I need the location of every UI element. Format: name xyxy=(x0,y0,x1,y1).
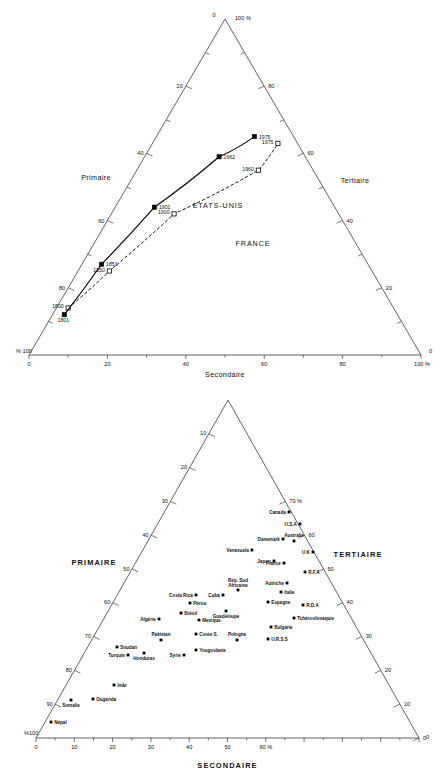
axis-tick-label: 40 xyxy=(142,532,148,538)
data-point xyxy=(99,262,103,266)
country-marker xyxy=(222,594,225,597)
axis-tick-label: 20 xyxy=(385,667,391,673)
apex-label-left: 0 xyxy=(212,12,215,18)
axis-label-secondaire: Secondaire xyxy=(205,370,245,379)
country-marker xyxy=(293,617,296,620)
axis-tick xyxy=(413,738,419,741)
data-point-label: 1962 xyxy=(224,154,236,160)
axis-tick xyxy=(127,187,131,189)
axis-tick-label: 100 % xyxy=(414,361,430,367)
country-marker xyxy=(236,639,239,642)
axis-tick-label: 0 xyxy=(27,361,30,367)
triangle-outline xyxy=(36,400,419,738)
country-marker xyxy=(180,612,183,615)
axis-tick-label: 60 xyxy=(98,218,104,224)
data-point-label: 1800 xyxy=(52,303,64,309)
axis-tick xyxy=(170,501,176,504)
country-label: Pérou xyxy=(193,601,206,606)
country-marker xyxy=(189,602,192,605)
country-marker xyxy=(293,540,296,543)
axis-tick xyxy=(74,670,80,673)
country-marker xyxy=(195,594,198,597)
axis-tick xyxy=(394,704,400,707)
country-label: Brésil xyxy=(184,611,197,616)
ternary-plot-bottom: 0102030405060 %%1000SECONDAIRE1020304050… xyxy=(0,390,446,775)
axis-tick xyxy=(94,637,100,640)
axis-tick-label: 80 xyxy=(59,285,65,291)
country-marker xyxy=(127,654,130,657)
country-label: Algérie xyxy=(140,617,156,622)
axis-tick-label: 60 xyxy=(307,150,313,156)
axis-tick-label: 60 % xyxy=(259,744,272,750)
axis-tick xyxy=(151,535,157,538)
country-marker xyxy=(195,649,198,652)
country-marker xyxy=(251,549,254,552)
country-marker xyxy=(70,699,73,702)
country-marker xyxy=(299,523,302,526)
country-label: Yougoslavie xyxy=(199,648,226,653)
country-label: Rép. SudAfricaine xyxy=(228,578,248,588)
axis-tick-label: 60 xyxy=(104,599,110,605)
country-label: Autriche xyxy=(265,581,284,586)
series-label-etats-unis: ETATS-UNIS xyxy=(193,201,244,210)
axis-tick-label: 40 xyxy=(183,361,189,367)
axis-tick-label: 40 xyxy=(137,150,143,156)
country-marker xyxy=(280,591,283,594)
axis-tick xyxy=(209,434,215,437)
country-marker xyxy=(267,638,270,641)
axis-tick xyxy=(376,288,382,291)
axis-tick-label: 40 xyxy=(347,599,353,605)
country-marker xyxy=(312,551,315,554)
axis-tick xyxy=(107,221,113,224)
data-point-label: 1801 xyxy=(58,317,70,323)
axis-tick-label: 0 xyxy=(34,744,37,750)
axis-tick-label: 50 xyxy=(328,566,334,572)
axis-tick-label: 20 xyxy=(181,464,187,470)
country-marker xyxy=(158,618,161,621)
axis-label-primaire: Primaire xyxy=(81,173,111,182)
axis-tick-label: 90 xyxy=(46,701,52,707)
country-marker xyxy=(283,562,286,565)
axis-label-primaire: PRIMAIRE xyxy=(72,558,117,567)
axis-tick-label: 20 xyxy=(104,361,110,367)
axis-tick-label: 60 xyxy=(261,361,267,367)
series-line-france xyxy=(64,137,254,315)
data-point-label: 1960 xyxy=(242,166,254,172)
country-label: Danemark xyxy=(258,537,281,542)
axis-tick xyxy=(147,153,153,156)
axis-label-secondaire: SECONDAIRE xyxy=(197,761,257,770)
axis-tick-label: 20 xyxy=(177,83,183,89)
axis-tick-label: 80 xyxy=(268,83,274,89)
data-point xyxy=(256,168,260,172)
country-label: Canada xyxy=(269,510,286,515)
country-marker xyxy=(160,639,163,642)
corner-label-right: 0 xyxy=(429,348,432,354)
country-label: U.R.S.S xyxy=(271,637,288,642)
data-point xyxy=(107,269,111,273)
axis-tick-label: 10 xyxy=(200,430,206,436)
axis-tick xyxy=(280,120,284,122)
axis-tick xyxy=(132,569,138,572)
axis-tick-label: 40 xyxy=(347,218,353,224)
axis-tick xyxy=(68,288,74,291)
axis-tick-label: 30 xyxy=(162,498,168,504)
data-point-label: 1975 xyxy=(259,134,271,140)
axis-tick-label: 60 xyxy=(308,532,314,538)
axis-tick xyxy=(297,153,303,156)
data-point xyxy=(217,155,221,159)
axis-tick xyxy=(358,254,362,256)
corner-label-left: %100 xyxy=(24,730,38,736)
axis-tick xyxy=(319,187,323,189)
ternary-chart-bottom: 0102030405060 %%1000SECONDAIRE1020304050… xyxy=(0,390,446,775)
axis-tick-label: 10 xyxy=(404,701,410,707)
country-marker xyxy=(286,582,289,585)
country-label: R.D.A xyxy=(306,603,319,608)
axis-label-tertiaire: Tertiaire xyxy=(341,176,370,185)
axis-tick xyxy=(337,603,343,606)
country-marker xyxy=(195,633,198,636)
data-point-label: 1851 xyxy=(106,261,118,267)
data-point xyxy=(276,141,280,145)
country-label: Pologne xyxy=(228,632,247,637)
axis-tick-label: 30 xyxy=(148,744,154,750)
axis-tick-label: 80 xyxy=(66,667,72,673)
